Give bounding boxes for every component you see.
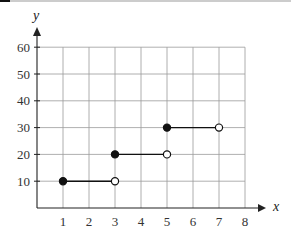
open-endpoint xyxy=(111,178,118,185)
y-axis-label: y xyxy=(31,8,40,23)
y-axis-arrow-icon xyxy=(33,27,41,36)
x-tick-label: 8 xyxy=(242,214,249,229)
x-tick-label: 6 xyxy=(190,214,197,229)
open-endpoint xyxy=(163,151,170,158)
x-tick-label: 5 xyxy=(164,214,171,229)
x-tick-label: 3 xyxy=(112,214,119,229)
y-tick-label: 50 xyxy=(17,67,30,82)
axes xyxy=(33,27,266,212)
x-tick-label: 4 xyxy=(138,214,145,229)
y-tick-label: 10 xyxy=(17,174,30,189)
y-tick-label: 30 xyxy=(17,120,30,135)
open-endpoint xyxy=(215,124,222,131)
y-tick-label: 60 xyxy=(17,40,30,55)
step-function-chart: 12345678102030405060 x y xyxy=(0,0,291,233)
x-tick-label: 1 xyxy=(60,214,67,229)
y-tick-label: 40 xyxy=(17,93,30,108)
closed-endpoint xyxy=(59,178,66,185)
y-tick-label: 20 xyxy=(17,147,30,162)
x-tick-label: 7 xyxy=(216,214,223,229)
tick-labels: 12345678102030405060 xyxy=(17,40,248,229)
x-axis-label: x xyxy=(272,199,280,214)
closed-endpoint xyxy=(163,124,170,131)
x-tick-label: 2 xyxy=(86,214,93,229)
closed-endpoint xyxy=(111,151,118,158)
x-axis-arrow-icon xyxy=(258,204,266,212)
corner-mark xyxy=(0,0,10,2)
